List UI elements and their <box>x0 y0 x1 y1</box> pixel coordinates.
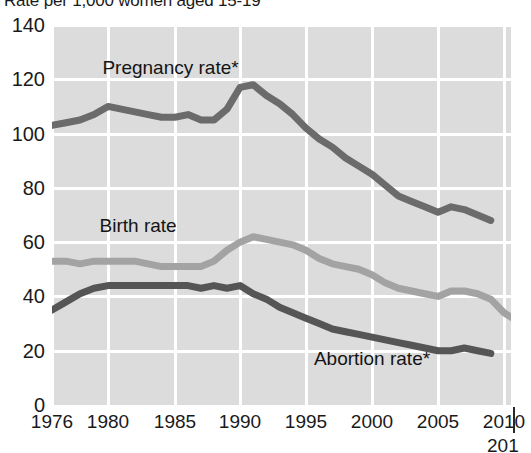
y-tick-label-20: 20 <box>0 341 45 361</box>
y-tick-label-100: 100 <box>0 124 45 144</box>
x-axis-end-tick <box>513 407 515 433</box>
y-tick-label-60: 60 <box>0 232 45 252</box>
series-label-birth-rate: Birth rate <box>100 216 177 236</box>
x-tick-label-2005: 2005 <box>417 412 459 432</box>
y-tick-label-40: 40 <box>0 286 45 306</box>
series-label-abortion-rate: Abortion rate* <box>314 349 430 369</box>
x-tick-label-1990: 1990 <box>219 412 261 432</box>
x-tick-label-2000: 2000 <box>351 412 393 432</box>
x-axis: 19761980198519901995200020052010 201 <box>0 405 531 453</box>
x-tick-label-1995: 1995 <box>285 412 327 432</box>
x-tick-label-extra: 201 <box>487 436 519 453</box>
y-tick-label-120: 120 <box>0 69 45 89</box>
x-tick-label-2010: 2010 <box>483 412 525 432</box>
x-tick-label-1985: 1985 <box>154 412 196 432</box>
x-tick-label-1980: 1980 <box>87 412 129 432</box>
series-label-pregnancy-rate: Pregnancy rate* <box>102 58 238 78</box>
y-tick-label-140: 140 <box>0 15 45 35</box>
x-tick-label-1976: 1976 <box>31 412 73 432</box>
y-tick-label-80: 80 <box>0 178 45 198</box>
series-line-pregnancy-rate <box>52 85 491 221</box>
chart-container: Rate per 1,000 women aged 15-19 Pregnanc… <box>0 0 531 453</box>
